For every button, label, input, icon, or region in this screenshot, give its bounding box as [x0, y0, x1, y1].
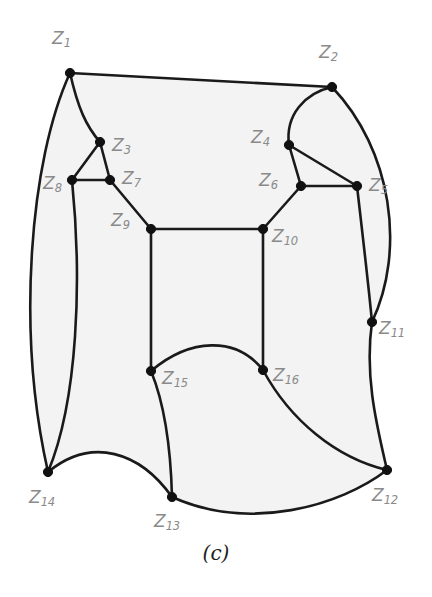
node-label-letter: Z — [379, 318, 391, 338]
graph-node-z5 — [352, 181, 361, 190]
node-label-subscript: 1 — [64, 36, 71, 50]
node-label-z15: Z15 — [162, 370, 188, 390]
node-label-z6: Z6 — [259, 172, 278, 192]
node-label-subscript: 14 — [41, 495, 55, 509]
graph-node-z8 — [67, 175, 76, 184]
graph-node-z15 — [146, 366, 155, 375]
node-label-letter: Z — [29, 487, 41, 507]
graph-node-z10 — [258, 224, 267, 233]
graph-node-z6 — [296, 181, 305, 190]
node-label-z12: Z12 — [372, 487, 398, 507]
node-label-subscript: 12 — [384, 493, 398, 507]
graph-node-z16 — [258, 365, 267, 374]
node-label-subscript: 16 — [285, 373, 299, 387]
node-label-z14: Z14 — [29, 489, 55, 509]
figure-container: Z1Z2Z3Z4Z5Z6Z7Z8Z9Z10Z11Z12Z13Z14Z15Z16 … — [0, 0, 432, 597]
node-label-subscript: 13 — [166, 519, 180, 533]
node-label-letter: Z — [43, 173, 55, 193]
node-label-letter: Z — [111, 210, 123, 230]
node-label-subscript: 7 — [134, 176, 141, 190]
node-label-subscript: 3 — [124, 143, 131, 157]
graph-node-z12 — [382, 465, 391, 474]
node-label-subscript: 15 — [174, 376, 188, 390]
node-label-letter: Z — [272, 226, 284, 246]
node-label-letter: Z — [122, 168, 134, 188]
node-label-z2: Z2 — [319, 44, 338, 64]
node-label-letter: Z — [162, 368, 174, 388]
node-label-subscript: 11 — [391, 326, 405, 340]
node-label-letter: Z — [52, 28, 64, 48]
graph-node-z13 — [167, 492, 176, 501]
graph-node-z3 — [95, 137, 104, 146]
node-label-subscript: 6 — [271, 178, 278, 192]
node-label-z16: Z16 — [273, 367, 299, 387]
node-label-letter: Z — [251, 127, 263, 147]
node-label-z9: Z9 — [111, 212, 130, 232]
node-label-letter: Z — [154, 511, 166, 531]
graph-node-z1 — [65, 68, 74, 77]
node-label-z1: Z1 — [52, 30, 71, 50]
node-label-letter: Z — [259, 170, 271, 190]
node-label-subscript: 10 — [284, 234, 298, 248]
node-label-z7: Z7 — [122, 170, 141, 190]
node-label-subscript: 8 — [55, 181, 62, 195]
figure-caption: (c) — [0, 541, 432, 565]
node-label-z4: Z4 — [251, 129, 270, 149]
node-label-subscript: 9 — [123, 218, 130, 232]
node-label-z5: Z5 — [369, 177, 388, 197]
node-label-z10: Z10 — [272, 228, 298, 248]
node-label-subscript: 5 — [381, 183, 388, 197]
graph-diagram — [0, 0, 432, 597]
node-label-letter: Z — [112, 135, 124, 155]
graph-node-z4 — [284, 140, 293, 149]
node-label-z13: Z13 — [154, 513, 180, 533]
graph-node-z14 — [43, 467, 52, 476]
node-label-letter: Z — [369, 175, 381, 195]
graph-node-z9 — [146, 224, 155, 233]
node-label-letter: Z — [372, 485, 384, 505]
graph-node-z7 — [105, 175, 114, 184]
node-label-letter: Z — [273, 365, 285, 385]
node-label-subscript: 4 — [263, 135, 270, 149]
node-label-subscript: 2 — [331, 50, 338, 64]
node-label-letter: Z — [319, 42, 331, 62]
node-label-z3: Z3 — [112, 137, 131, 157]
graph-node-z2 — [327, 82, 336, 91]
node-label-z11: Z11 — [379, 320, 405, 340]
graph-node-z11 — [367, 317, 376, 326]
node-label-z8: Z8 — [43, 175, 62, 195]
